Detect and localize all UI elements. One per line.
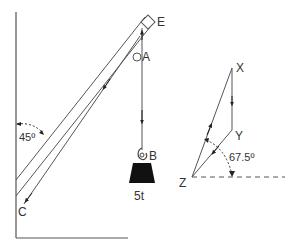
tie-rope-arrow-c (26, 193, 32, 201)
weight-block (129, 163, 155, 183)
pulley-a-icon (133, 53, 141, 61)
side-yz (192, 130, 232, 177)
label-angle-67: 67.5º (229, 151, 254, 163)
label-y: Y (235, 129, 243, 143)
jib-head-box (141, 15, 155, 29)
tie-rope-line (24, 36, 140, 204)
label-b: B (149, 149, 157, 163)
label-x: X (236, 61, 244, 75)
label-a: A (142, 50, 150, 64)
hook-eye-icon (140, 153, 144, 157)
angle-arrow-left-icon (16, 122, 21, 126)
jib-upper-edge (16, 17, 145, 180)
jib-lower-edge (16, 27, 150, 196)
side-zx (192, 68, 232, 177)
crane-diagram: E A B C 5t 45º X Y Z 67.5º (0, 0, 290, 246)
label-z: Z (179, 176, 186, 190)
label-load: 5t (134, 189, 145, 203)
label-e: E (157, 15, 165, 29)
label-c: C (18, 205, 27, 219)
angle-arrow-bottom-icon (229, 171, 235, 177)
arrow-zx (207, 125, 211, 135)
arrow-yz (213, 146, 219, 153)
angle-arrow-right-icon (39, 130, 44, 135)
label-jib-angle: 45º (19, 131, 35, 143)
tie-rope (24, 36, 140, 204)
